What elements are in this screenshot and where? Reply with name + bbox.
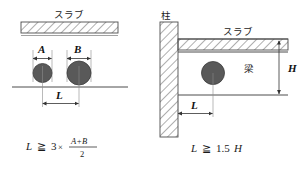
left-dim-l-label: L [55, 89, 63, 101]
right-dim-h-label: H [287, 62, 297, 74]
right-diagram-svg: 柱 スラブ 梁 [151, 0, 302, 169]
left-formula-variable: L [25, 140, 32, 152]
left-formula: L ≧ 3 × A+B 2 [25, 136, 97, 159]
right-dim-l-label: L [190, 99, 198, 111]
left-formula-numerator: A+B [70, 136, 87, 146]
right-formula-variable2: H [233, 142, 243, 154]
right-hatched-slab [178, 39, 288, 50]
right-beam-label: 梁 [244, 63, 254, 74]
left-diagram-svg: スラブ A B [0, 0, 151, 169]
right-formula-relation: ≧ [202, 142, 211, 154]
left-dim-a-label: A [37, 43, 45, 55]
left-formula-factor: 3 [51, 140, 57, 152]
left-formula-times: × [58, 142, 63, 152]
right-formula-value: 1.5 [216, 142, 230, 154]
left-dimension-l: L [43, 89, 79, 104]
left-dim-b-label: B [73, 43, 81, 55]
left-formula-relation: ≧ [37, 140, 46, 152]
left-slab-label: スラブ [54, 9, 84, 20]
left-diagram-panel: スラブ A B [0, 0, 151, 169]
right-slab-label: スラブ [223, 26, 253, 37]
right-diagram-panel: 柱 スラブ 梁 [151, 0, 302, 169]
right-column-label: 柱 [161, 10, 171, 21]
right-hatched-column [160, 22, 178, 137]
left-hatched-slab [21, 22, 118, 33]
right-formula-variable: L [190, 142, 197, 154]
left-formula-denominator: 2 [80, 149, 84, 159]
figure-container: スラブ A B [0, 0, 302, 169]
right-dimension-l: L [179, 99, 213, 114]
right-formula: L ≧ 1.5 H [190, 142, 243, 154]
